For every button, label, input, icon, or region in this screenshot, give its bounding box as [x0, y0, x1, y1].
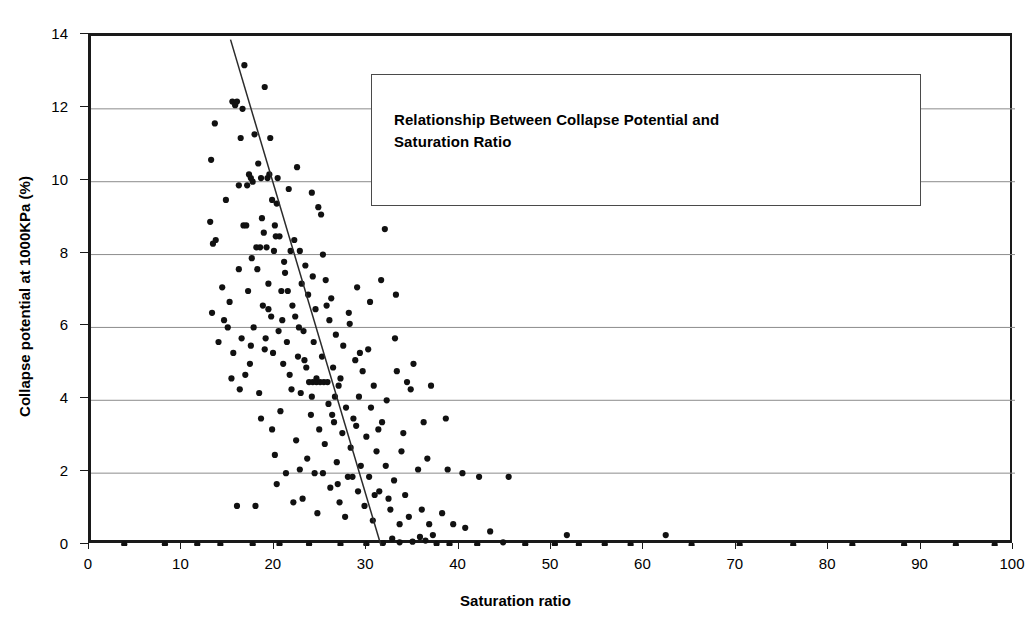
x-tick-mark: [458, 543, 459, 549]
x-tick-mark: [827, 543, 828, 549]
x-tick-label: 80: [819, 556, 836, 571]
y-tick-mark: [80, 252, 88, 253]
x-tick-mark: [273, 543, 274, 549]
x-tick-label: 0: [84, 556, 92, 571]
x-tick-label: 50: [542, 556, 559, 571]
x-tick-mark: [920, 543, 921, 549]
y-tick-mark: [80, 106, 88, 107]
x-tick-label: 10: [172, 556, 189, 571]
x-tick-label: 20: [264, 556, 281, 571]
x-tick-mark: [550, 543, 551, 549]
x-tick-mark: [88, 543, 89, 549]
y-tick-mark: [80, 324, 88, 325]
x-tick-label: 30: [357, 556, 374, 571]
chart-root: Relationship Between Collapse Potential …: [0, 0, 1031, 635]
x-tick-mark: [1012, 543, 1013, 549]
y-tick-mark: [80, 179, 88, 180]
x-tick-mark: [735, 543, 736, 549]
x-axis-tick-labels: 0102030405060708090100: [0, 0, 1031, 635]
x-tick-mark: [642, 543, 643, 549]
x-tick-mark: [180, 543, 181, 549]
y-tick-mark: [80, 397, 88, 398]
x-tick-label: 70: [726, 556, 743, 571]
x-tick-label: 40: [449, 556, 466, 571]
y-tick-mark: [80, 470, 88, 471]
y-tick-mark: [80, 33, 88, 34]
x-tick-label: 90: [911, 556, 928, 571]
x-tick-mark: [365, 543, 366, 549]
x-tick-label: 60: [634, 556, 651, 571]
x-axis-title: Saturation ratio: [0, 592, 1031, 609]
y-axis-title: Collapse potential at 1000KPa (%): [16, 87, 33, 507]
x-tick-label: 100: [999, 556, 1024, 571]
y-tick-mark: [80, 543, 88, 544]
